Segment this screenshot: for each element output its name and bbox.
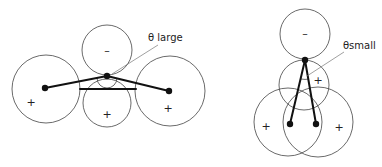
atom-node — [42, 85, 48, 91]
atom-node — [302, 57, 308, 63]
bond-line — [305, 60, 316, 124]
phase-sign: – — [104, 44, 110, 57]
angle-arc — [97, 78, 117, 88]
phase-sign: + — [313, 74, 322, 87]
phase-sign: + — [163, 102, 172, 115]
bond-line — [290, 60, 305, 124]
phase-sign: + — [26, 96, 35, 109]
atom-node — [313, 121, 319, 127]
atom-node — [166, 88, 172, 94]
leader-line — [112, 45, 158, 74]
atom-node — [287, 121, 293, 127]
phase-sign: + — [334, 121, 343, 134]
atom-node — [104, 73, 110, 79]
angle-label: θ large — [148, 32, 183, 43]
diagram: +–++θ large –+++θsmall — [0, 0, 382, 167]
phase-sign: + — [261, 120, 270, 133]
figure-theta-small: –+++θsmall — [254, 9, 376, 157]
phase-sign: – — [302, 27, 308, 40]
angle-label: θsmall — [343, 40, 376, 51]
figure-theta-large: +–++θ large — [12, 25, 205, 127]
phase-sign: + — [102, 108, 111, 121]
